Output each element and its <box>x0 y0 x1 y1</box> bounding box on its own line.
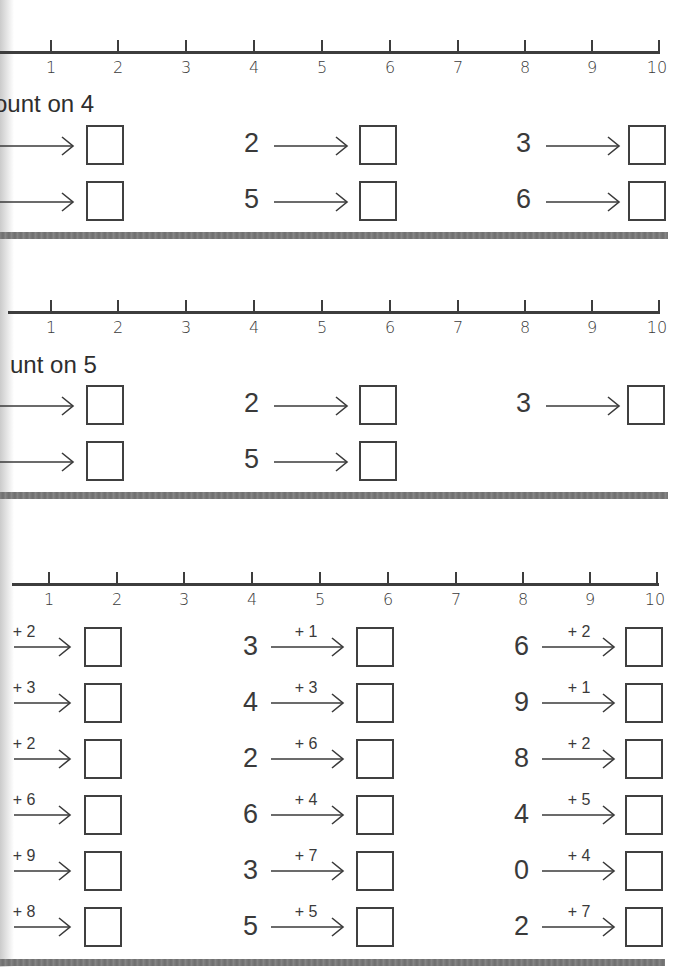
arrow-icon <box>271 635 345 659</box>
arrow-icon <box>14 915 72 939</box>
answer-box[interactable] <box>627 385 665 425</box>
problem-row: 2 <box>244 382 404 428</box>
tick-label: 6 <box>373 590 403 609</box>
problem-row: 4 + 3 <box>243 681 403 727</box>
tick <box>389 300 391 312</box>
problem-row: 5 <box>244 438 404 484</box>
answer-box[interactable] <box>359 181 397 221</box>
arrow-icon <box>542 635 616 659</box>
start-number: 6 <box>514 631 529 662</box>
tick-label: 3 <box>171 58 201 77</box>
arrow-icon <box>0 134 76 158</box>
start-number: 0 <box>514 855 529 886</box>
answer-box[interactable] <box>84 907 122 947</box>
arrow-icon <box>546 190 622 214</box>
problem-row: 5 + 5 <box>243 905 403 951</box>
answer-box[interactable] <box>625 739 663 779</box>
tick <box>656 572 658 584</box>
start-number: 3 <box>516 128 531 159</box>
problem-row <box>0 382 130 428</box>
problem-row: 5 <box>244 178 404 224</box>
answer-box[interactable] <box>86 385 124 425</box>
start-number: 4 <box>514 799 529 830</box>
arrow-icon <box>14 747 72 771</box>
tick-label: 7 <box>441 590 471 609</box>
answer-box[interactable] <box>625 795 663 835</box>
tick-label: 5 <box>305 590 335 609</box>
tick-label: 9 <box>575 590 605 609</box>
start-number: 2 <box>243 743 258 774</box>
start-number: 3 <box>516 388 531 419</box>
tick <box>50 40 52 52</box>
tick-label: 6 <box>375 58 405 77</box>
answer-box[interactable] <box>86 125 124 165</box>
tick <box>321 40 323 52</box>
arrow-icon <box>14 803 72 827</box>
tick-label: 9 <box>577 318 607 337</box>
tick <box>253 40 255 52</box>
tick-label: 4 <box>239 58 269 77</box>
answer-box[interactable] <box>86 441 124 481</box>
tick <box>524 300 526 312</box>
tick <box>117 300 119 312</box>
arrow-icon <box>14 635 72 659</box>
answer-box[interactable] <box>84 627 122 667</box>
section-heading-count-on-4: ount on 4 <box>0 90 94 118</box>
section-divider <box>0 959 665 966</box>
answer-box[interactable] <box>625 851 663 891</box>
tick <box>658 300 660 312</box>
arrow-icon <box>0 450 76 474</box>
answer-box[interactable] <box>84 683 122 723</box>
answer-box[interactable] <box>356 683 394 723</box>
answer-box[interactable] <box>359 125 397 165</box>
problem-row: + 9 <box>0 849 126 895</box>
tick <box>251 572 253 584</box>
tick <box>319 572 321 584</box>
tick <box>48 572 50 584</box>
section-divider <box>0 232 668 239</box>
problem-row: 6 <box>516 178 676 224</box>
answer-box[interactable] <box>359 441 397 481</box>
number-line-1: 1 2 3 4 5 6 7 8 9 10 <box>0 38 683 78</box>
start-number: 2 <box>244 388 259 419</box>
arrow-icon <box>0 394 76 418</box>
tick-label: 4 <box>239 318 269 337</box>
arrow-icon <box>271 691 345 715</box>
start-number: 2 <box>514 911 529 942</box>
answer-box[interactable] <box>356 907 394 947</box>
problem-row: 6 + 4 <box>243 793 403 839</box>
answer-box[interactable] <box>84 851 122 891</box>
number-line-axis <box>12 583 659 586</box>
arrow-icon <box>546 134 622 158</box>
answer-box[interactable] <box>625 627 663 667</box>
answer-box[interactable] <box>628 125 666 165</box>
start-number: 2 <box>244 128 259 159</box>
tick <box>522 572 524 584</box>
answer-box[interactable] <box>84 795 122 835</box>
answer-box[interactable] <box>86 181 124 221</box>
problem-row <box>0 178 130 224</box>
tick-label: 2 <box>103 58 133 77</box>
answer-box[interactable] <box>625 683 663 723</box>
answer-box[interactable] <box>625 907 663 947</box>
start-number: 3 <box>243 631 258 662</box>
start-number: 4 <box>243 687 258 718</box>
tick-label: 2 <box>102 590 132 609</box>
tick <box>455 572 457 584</box>
number-line-axis <box>8 311 660 314</box>
start-number: 5 <box>243 911 258 942</box>
answer-box[interactable] <box>356 795 394 835</box>
tick-label: 1 <box>34 590 64 609</box>
arrow-icon <box>274 450 350 474</box>
tick-label: 9 <box>577 58 607 77</box>
problem-row: 9 + 1 <box>514 681 674 727</box>
answer-box[interactable] <box>84 739 122 779</box>
number-line-3: 1 2 3 4 5 6 7 8 9 10 <box>0 570 683 610</box>
answer-box[interactable] <box>359 385 397 425</box>
arrow-icon <box>14 691 72 715</box>
answer-box[interactable] <box>356 851 394 891</box>
answer-box[interactable] <box>356 739 394 779</box>
answer-box[interactable] <box>356 627 394 667</box>
problem-row: 4 + 5 <box>514 793 674 839</box>
answer-box[interactable] <box>628 181 666 221</box>
